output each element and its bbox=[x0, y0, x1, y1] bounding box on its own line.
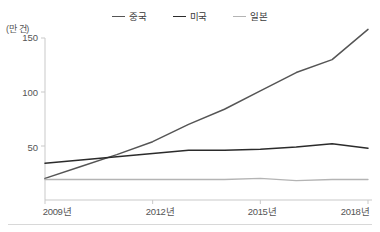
y-tick-label-100: 100 bbox=[12, 87, 38, 98]
x-tick-marks bbox=[45, 200, 368, 204]
bottom-divider bbox=[8, 224, 372, 225]
series-lines bbox=[45, 29, 368, 180]
y-tick-marks bbox=[41, 38, 45, 146]
plot-area bbox=[0, 0, 380, 232]
line-chart: 중국 미국 일본 (만 건) 150 100 50 2009년 2012년 20… bbox=[0, 0, 380, 232]
x-tick-label-2015: 2015년 bbox=[238, 204, 286, 218]
x-tick-label-2012: 2012년 bbox=[136, 204, 184, 218]
x-tick-label-2018: 2018년 bbox=[331, 204, 379, 218]
series-line-china bbox=[45, 29, 368, 178]
y-tick-label-50: 50 bbox=[12, 142, 38, 153]
series-line-usa bbox=[45, 144, 368, 163]
x-tick-label-2009: 2009년 bbox=[33, 204, 81, 218]
series-line-japan bbox=[45, 178, 368, 180]
y-tick-label-150: 150 bbox=[12, 32, 38, 43]
